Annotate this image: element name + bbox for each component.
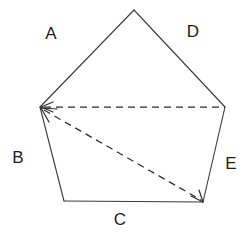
side-label-d: D: [187, 23, 199, 40]
pentagon-edge-e: [203, 107, 225, 202]
pentagon-edge-d: [134, 10, 225, 107]
geometry-diagram: A D B C E: [0, 0, 247, 238]
pentagon-edge-b: [40, 107, 64, 201]
side-label-b: B: [12, 149, 24, 166]
pentagon-figure-svg: [0, 0, 247, 238]
side-label-a: A: [45, 25, 57, 42]
side-label-c: C: [114, 211, 126, 228]
side-label-e: E: [225, 155, 237, 172]
pentagon-edge-c: [64, 201, 203, 202]
dashed-diagonal-slanted: [44, 110, 201, 200]
